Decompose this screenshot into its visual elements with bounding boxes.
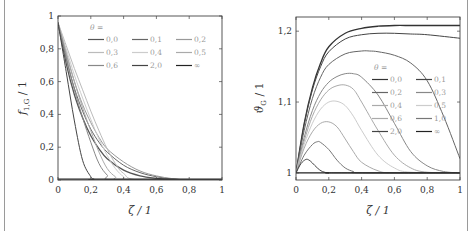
legend-entry-label: 0,4 bbox=[150, 48, 162, 57]
legend-entry-label: 0,0 bbox=[106, 35, 118, 44]
series-line-3 bbox=[58, 23, 222, 181]
y-tick-label: 0,8 bbox=[40, 44, 55, 54]
x-axis-label: ζ / 1 bbox=[128, 204, 152, 217]
x-tick-label: 0,2 bbox=[322, 185, 336, 195]
legend-entry-label: ∞ bbox=[194, 61, 200, 70]
series-line-5 bbox=[58, 23, 222, 181]
y-tick-label: 0,4 bbox=[40, 109, 55, 119]
figure-canvas: 00,20,40,60,8100,20,40,60,81ζ / 1f1,G / … bbox=[0, 0, 476, 231]
legend-entry-label: 0,4 bbox=[390, 101, 402, 110]
x-axis-label: ζ / 1 bbox=[366, 204, 390, 217]
x-tick-label: 0 bbox=[293, 185, 299, 195]
legend-entry-label: 0,2 bbox=[390, 88, 402, 97]
legend-entry-label: 0,5 bbox=[434, 101, 446, 110]
x-tick-label: 0,2 bbox=[84, 185, 98, 195]
legend-entry-label: 0,3 bbox=[434, 88, 446, 97]
x-tick-label: 1 bbox=[457, 185, 463, 195]
legend-entry-label: 0,6 bbox=[390, 114, 402, 123]
plot-f1g: 00,20,40,60,8100,20,40,60,81ζ / 1f1,G / … bbox=[16, 11, 225, 217]
x-tick-label: 0 bbox=[55, 185, 61, 195]
series-line-7 bbox=[58, 23, 222, 181]
y-tick-label: 1,2 bbox=[278, 26, 292, 36]
legend-entry-label: 0,5 bbox=[194, 48, 206, 57]
x-tick-label: 0,6 bbox=[149, 185, 164, 195]
legend-entry-label: 0,2 bbox=[194, 35, 206, 44]
legend-entry-label: 0,1 bbox=[434, 75, 446, 84]
x-tick-label: 1 bbox=[219, 185, 225, 195]
x-tick-label: 0,8 bbox=[420, 185, 435, 195]
y-axis-label: ϑG / 1 bbox=[253, 82, 268, 113]
legend-entry-label: 2,0 bbox=[150, 61, 162, 70]
series-line-6 bbox=[58, 23, 222, 181]
legend-title: θ = bbox=[374, 63, 387, 72]
series-line-0 bbox=[58, 23, 222, 180]
y-tick-label: 1,1 bbox=[278, 97, 292, 107]
y-tick-label: 0,6 bbox=[40, 77, 55, 87]
legend-entry-label: 0,0 bbox=[390, 75, 402, 84]
y-tick-label: 1 bbox=[286, 168, 292, 178]
x-tick-label: 0,6 bbox=[387, 185, 402, 195]
series-line-1 bbox=[58, 23, 222, 181]
legend-title: θ = bbox=[90, 23, 103, 32]
y-axis-label: f1,G / 1 bbox=[16, 81, 31, 116]
legend: θ =0,00,10,20,30,40,50,62,0∞ bbox=[88, 23, 206, 70]
y-tick-label: 0,2 bbox=[40, 142, 54, 152]
plot-theta-g: 00,20,40,60,8111,11,2ζ / 1ϑG / 1θ =0,00,… bbox=[253, 17, 463, 217]
series-group bbox=[296, 25, 460, 173]
legend-entry-label: 0,6 bbox=[106, 61, 118, 70]
legend-entry-label: ∞ bbox=[434, 127, 440, 136]
series-line-4 bbox=[58, 23, 222, 181]
legend-entry-label: 0,1 bbox=[150, 35, 162, 44]
legend-entry-label: 2,0 bbox=[390, 127, 402, 136]
y-tick-label: 1 bbox=[48, 11, 54, 21]
series-line-5 bbox=[296, 101, 460, 173]
x-tick-label: 0,8 bbox=[182, 185, 197, 195]
legend-entry-label: 1,0 bbox=[434, 114, 446, 123]
x-tick-label: 0,4 bbox=[116, 185, 131, 195]
series-line-7 bbox=[296, 141, 460, 173]
x-tick-label: 0,4 bbox=[354, 185, 369, 195]
legend: θ =0,00,10,20,30,40,50,61,02,0∞ bbox=[372, 63, 446, 136]
legend-entry-label: 0,3 bbox=[106, 48, 118, 57]
series-group bbox=[58, 23, 222, 181]
y-tick-label: 0 bbox=[48, 175, 54, 185]
series-line-2 bbox=[58, 23, 222, 181]
